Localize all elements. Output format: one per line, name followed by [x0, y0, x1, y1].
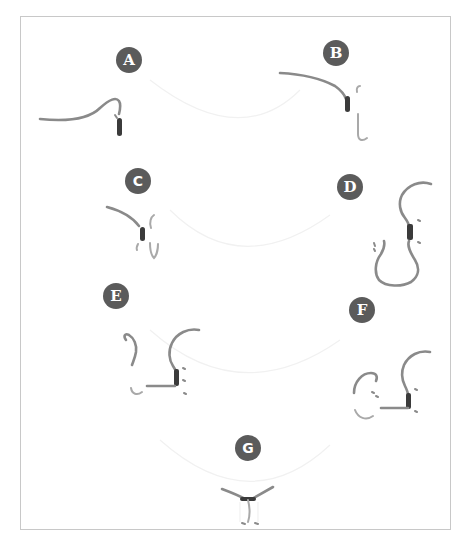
step-c-illustration [107, 207, 158, 258]
knot-illustrations [0, 0, 470, 546]
step-f-illustration [354, 352, 430, 419]
background-guide-arcs [150, 80, 340, 481]
step-b-illustration [280, 73, 367, 140]
step-g-illustration [222, 487, 273, 524]
step-d-illustration [374, 183, 431, 286]
step-a-illustration [40, 99, 122, 136]
